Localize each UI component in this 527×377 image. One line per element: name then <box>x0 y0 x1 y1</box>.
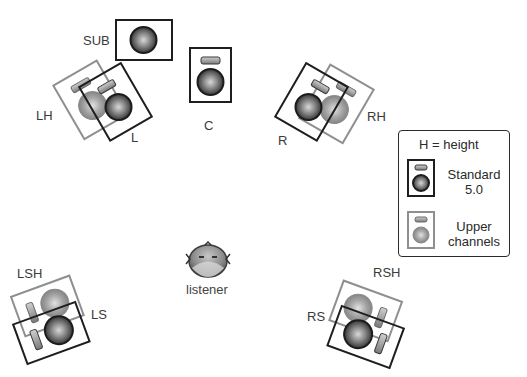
label-rh: RH <box>367 110 386 123</box>
label-lh: LH <box>36 109 53 122</box>
speaker-rs <box>327 306 403 368</box>
listener-icon <box>186 242 230 277</box>
legend-upper-line2: channels <box>443 234 505 249</box>
legend-upper-line1: Upper <box>443 219 505 234</box>
label-lsh: LSH <box>17 267 42 280</box>
standard-speaker-icon <box>407 159 435 197</box>
legend-box: H = height Standard 5.0 Upper channels <box>398 130 510 257</box>
speaker-sub <box>116 20 172 60</box>
label-listener: listener <box>186 283 228 296</box>
speaker-c <box>190 48 231 102</box>
legend-title: H = height <box>419 137 479 152</box>
label-ls: LS <box>91 308 107 321</box>
label-l: L <box>131 131 138 144</box>
label-rs: RS <box>307 310 325 323</box>
upper-speaker-icon <box>407 211 435 249</box>
legend-standard-line2: 5.0 <box>443 182 505 197</box>
legend-standard-line1: Standard <box>443 167 505 182</box>
label-rsh: RSH <box>373 266 400 279</box>
speaker-layout-diagram: SUB LH L C R RH LSH LS RSH RS listener H… <box>0 0 527 377</box>
label-r: R <box>278 134 287 147</box>
label-sub: SUB <box>83 34 110 47</box>
label-c: C <box>204 119 213 132</box>
